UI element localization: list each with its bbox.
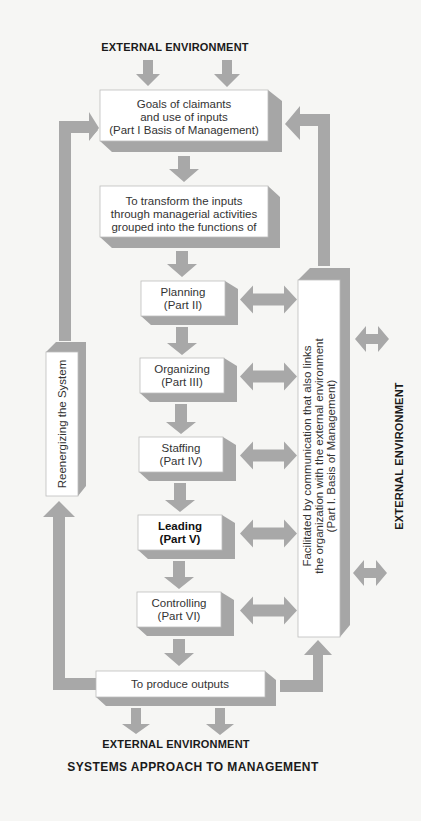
feedback-arrow-right-bottom — [280, 640, 332, 692]
output-arrow-right — [206, 708, 234, 735]
flow-arrow-down — [164, 561, 194, 589]
communication-double-arrow — [240, 286, 297, 314]
communication-line-3: (Part I. Basis of Management) — [325, 379, 337, 532]
arrow-controlling-to-outputs — [164, 639, 194, 666]
function-part: (Part V) — [160, 533, 201, 545]
systems-approach-diagram: EXTERNAL ENVIRONMENT Goals of claimants … — [0, 0, 421, 821]
external-double-arrow-upper — [355, 326, 389, 352]
inputs-box-line-3: (Part I Basis of Management) — [109, 124, 259, 136]
communication-line-1: Facilitated by communication that also l… — [301, 345, 313, 566]
transform-box-line-1: To transform the inputs — [126, 195, 243, 207]
output-arrow-left — [122, 708, 150, 734]
function-box-organizing: Organizing(Part III) — [140, 358, 297, 434]
diagram-title: SYSTEMS APPROACH TO MANAGEMENT — [67, 760, 319, 774]
function-name: Controlling — [152, 597, 207, 609]
function-name: Organizing — [154, 363, 210, 375]
function-box-leading: Leading(Part V) — [138, 515, 297, 589]
flow-arrow-down — [165, 483, 195, 512]
function-part: (Part II) — [164, 299, 203, 311]
flow-arrow-down — [167, 327, 197, 355]
flow-arrow-down — [166, 404, 196, 434]
communication-line-2: the organization with the external envir… — [313, 338, 325, 574]
outputs-box: To produce outputs — [96, 671, 276, 706]
external-environment-top-label: EXTERNAL ENVIRONMENT — [101, 41, 248, 53]
external-environment-right-label: EXTERNAL ENVIRONMENT — [393, 382, 405, 529]
function-name: Planning — [161, 286, 206, 298]
function-name: Staffing — [162, 442, 201, 454]
functions-group: Planning(Part II)Organizing(Part III)Sta… — [137, 281, 297, 636]
transform-box: To transform the inputs through manageri… — [100, 186, 280, 248]
function-name: Leading — [158, 520, 202, 532]
communication-double-arrow — [240, 597, 297, 625]
input-arrow-left — [136, 60, 160, 86]
function-part: (Part IV) — [160, 455, 203, 467]
transform-box-line-2: through managerial activities — [111, 208, 258, 220]
arrow-inputs-to-transform — [169, 156, 199, 182]
function-part: (Part III) — [161, 376, 203, 388]
inputs-box-line-2: and use of inputs — [140, 111, 228, 123]
input-arrow-right — [214, 60, 240, 87]
external-environment-bottom-label: EXTERNAL ENVIRONMENT — [102, 738, 249, 750]
feedback-arrow-left-bottom — [43, 501, 96, 690]
feedback-arrow-left-top — [59, 112, 99, 341]
communication-double-arrow — [240, 363, 297, 391]
outputs-box-label: To produce outputs — [131, 678, 229, 690]
transform-box-line-3: grouped into the functions of — [111, 221, 257, 233]
function-box-controlling: Controlling(Part VI) — [137, 592, 297, 636]
inputs-box-line-1: Goals of claimants — [137, 98, 232, 110]
function-box-planning: Planning(Part II) — [141, 281, 297, 355]
inputs-box: Goals of claimants and use of inputs (Pa… — [100, 90, 282, 152]
feedback-arrow-right-top — [285, 106, 330, 266]
communication-double-arrow — [240, 442, 297, 470]
reenergizing-label: Reenergizing the System — [56, 360, 68, 488]
function-part: (Part VI) — [158, 610, 201, 622]
arrow-transform-to-planning — [167, 251, 197, 277]
external-double-arrow-lower — [353, 560, 387, 586]
communication-double-arrow — [240, 520, 297, 548]
function-box-staffing: Staffing(Part IV) — [139, 437, 297, 512]
communication-box: Facilitated by communication that also l… — [298, 268, 350, 637]
reenergizing-box: Reenergizing the System — [46, 342, 86, 496]
